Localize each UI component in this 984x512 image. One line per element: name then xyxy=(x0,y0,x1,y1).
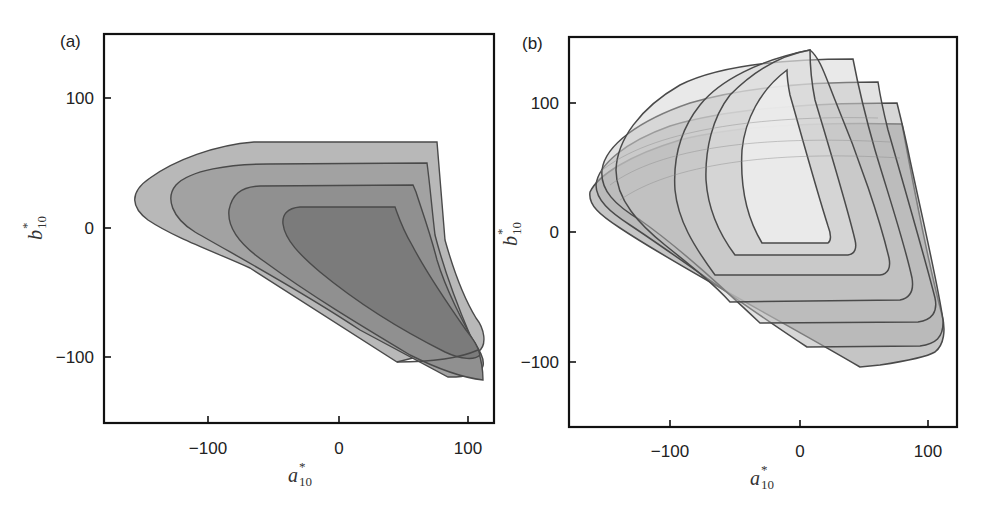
svg-text:10: 10 xyxy=(299,474,312,489)
svg-text:*: * xyxy=(19,223,34,230)
panel-a: −100 0 100 100 0 −100 (a) a * 10 b * 10 xyxy=(19,32,494,489)
svg-text:*: * xyxy=(299,459,306,474)
panel-a-ytick-label: −100 xyxy=(56,348,94,367)
panel-a-xtick-label: 0 xyxy=(334,439,343,458)
panel-a-label: (a) xyxy=(60,32,81,51)
svg-text:10: 10 xyxy=(509,222,524,235)
svg-text:b: b xyxy=(499,236,521,246)
panel-a-ytick-label: 100 xyxy=(66,89,94,108)
panel-b-ytick-label: 0 xyxy=(550,223,559,242)
panel-b-plot-area xyxy=(590,50,944,367)
svg-text:*: * xyxy=(761,462,768,477)
svg-text:b: b xyxy=(24,230,46,240)
svg-text:a: a xyxy=(288,464,298,486)
panel-a-plot-area xyxy=(135,142,484,380)
svg-text:10: 10 xyxy=(34,216,49,229)
panel-b: −100 0 100 100 0 −100 (b) a * 10 b * 10 xyxy=(494,34,957,492)
panel-b-xtick-label: 100 xyxy=(914,442,942,461)
panel-a-xlabel: a * 10 xyxy=(288,459,312,489)
panel-b-ytick-label: −100 xyxy=(521,353,559,372)
svg-text:*: * xyxy=(494,229,509,236)
panel-a-xtick-label: −100 xyxy=(189,439,227,458)
svg-text:10: 10 xyxy=(761,477,774,492)
panel-b-xlabel: a * 10 xyxy=(750,462,774,492)
panel-b-xtick-label: −100 xyxy=(651,442,689,461)
panel-b-xtick-label: 0 xyxy=(795,442,804,461)
panel-a-xtick-label: 100 xyxy=(454,439,482,458)
panel-b-ytick-label: 100 xyxy=(531,94,559,113)
panel-b-ylabel: b * 10 xyxy=(494,222,524,246)
svg-text:a: a xyxy=(750,467,760,489)
panel-b-label: (b) xyxy=(522,34,543,53)
figure: −100 0 100 100 0 −100 (a) a * 10 b * 10 xyxy=(0,0,984,512)
panel-a-ytick-label: 0 xyxy=(85,219,94,238)
panel-a-ylabel: b * 10 xyxy=(19,216,49,240)
